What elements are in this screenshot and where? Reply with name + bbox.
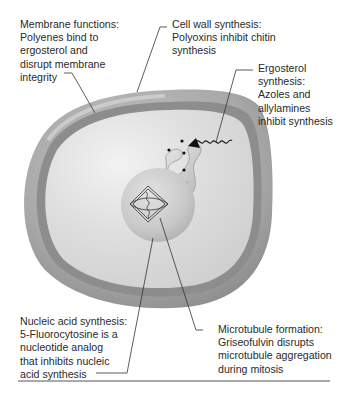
label-line: nucleotide analog: [20, 341, 127, 354]
label-line: ergosterol and: [20, 44, 119, 57]
label-microtubule-formation: Microtubule formation: Griseofulvin disr…: [218, 323, 332, 376]
label-line: allylamines: [258, 102, 333, 115]
label-line: synthesis:: [258, 75, 333, 88]
label-line: during mitosis: [218, 363, 332, 376]
nucleus: [121, 168, 195, 242]
label-line: that inhibits nucleic: [20, 355, 127, 368]
label-line: synthesis: [172, 44, 276, 57]
label-line: acid synthesis: [20, 368, 127, 381]
label-membrane-functions: Membrane functions: Polyenes bind to erg…: [20, 18, 119, 84]
label-line: microtubule aggregation: [218, 349, 332, 362]
label-line: Azoles and: [258, 88, 333, 101]
label-ergosterol-synthesis: Ergosterol synthesis: Azoles and allylam…: [258, 62, 333, 128]
label-nucleic-acid-synthesis: Nucleic acid synthesis: 5-Fluorocytosine…: [20, 315, 127, 381]
label-line: disrupt membrane: [20, 58, 119, 71]
label-line: Nucleic acid synthesis:: [20, 315, 127, 328]
label-line: Griseofulvin disrupts: [218, 336, 332, 349]
label-line: 5-Fluorocytosine is a: [20, 328, 127, 341]
label-cell-wall-synthesis: Cell wall synthesis: Polyoxins inhibit c…: [172, 18, 276, 58]
label-line: integrity: [20, 71, 119, 84]
label-line: Cell wall synthesis:: [172, 18, 276, 31]
label-line: Membrane functions:: [20, 18, 119, 31]
label-line: Polyoxins inhibit chitin: [172, 31, 276, 44]
label-line: Ergosterol: [258, 62, 333, 75]
label-line: inhibit synthesis: [258, 115, 333, 128]
label-line: Polyenes bind to: [20, 31, 119, 44]
label-line: Microtubule formation:: [218, 323, 332, 336]
